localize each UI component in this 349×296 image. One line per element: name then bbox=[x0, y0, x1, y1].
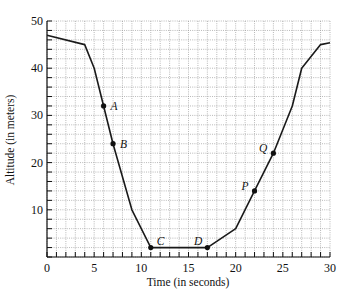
y-tick-label: 30 bbox=[31, 108, 43, 122]
point-label: A bbox=[110, 100, 119, 112]
y-tick-label: 10 bbox=[31, 203, 43, 217]
point-label: Q bbox=[259, 142, 268, 154]
x-axis-label: Time (in seconds) bbox=[147, 276, 230, 289]
y-tick-labels: 1020304050 bbox=[31, 14, 43, 217]
y-axis-label: Altitude (in meters) bbox=[4, 94, 17, 185]
point-marker bbox=[101, 103, 106, 108]
x-tick-labels: 051015202530 bbox=[44, 261, 336, 275]
point-label: B bbox=[120, 138, 127, 150]
point-label: C bbox=[157, 235, 165, 247]
x-tick-label: 20 bbox=[230, 261, 242, 275]
point-label: P bbox=[241, 180, 249, 192]
y-tick-label: 50 bbox=[31, 14, 43, 28]
y-tick-label: 40 bbox=[31, 61, 43, 75]
x-tick-label: 0 bbox=[44, 261, 50, 275]
x-tick-label: 25 bbox=[277, 261, 289, 275]
point-marker bbox=[110, 141, 115, 146]
point-marker bbox=[205, 245, 210, 250]
point-marker bbox=[252, 188, 257, 193]
x-tick-label: 10 bbox=[135, 261, 147, 275]
x-tick-label: 30 bbox=[324, 261, 336, 275]
y-tick-label: 20 bbox=[31, 156, 43, 170]
x-tick-label: 5 bbox=[91, 261, 97, 275]
point-a: A bbox=[101, 100, 119, 112]
point-marker bbox=[271, 151, 276, 156]
point-marker bbox=[148, 245, 153, 250]
point-label: D bbox=[193, 235, 203, 247]
altitude-curve bbox=[47, 35, 330, 247]
point-b: B bbox=[110, 138, 127, 150]
x-tick-label: 15 bbox=[183, 261, 195, 275]
altitude-time-chart: 051015202530 1020304050 ABCDPQ Time (in … bbox=[0, 0, 349, 296]
